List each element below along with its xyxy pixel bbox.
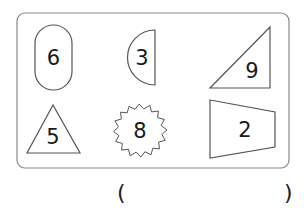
capsule-shape: 6: [35, 25, 72, 90]
semicircle-shape: 3: [128, 30, 155, 85]
starburst-number: 8: [133, 119, 146, 143]
right-triangle-shape: 9: [210, 27, 270, 88]
triangle-shape: 5: [27, 105, 80, 153]
capsule-number: 6: [47, 46, 60, 70]
triangle-number: 5: [46, 125, 59, 149]
trapezoid-shape: 2: [210, 100, 275, 158]
shapes-figure: 6 3 9 5 8 2: [0, 0, 307, 220]
right-triangle-number: 9: [245, 59, 258, 83]
semicircle-number: 3: [135, 46, 148, 70]
starburst-shape: 8: [114, 104, 167, 157]
answer-paren-close: ): [284, 180, 293, 205]
answer-paren-open: (: [117, 180, 126, 205]
trapezoid-number: 2: [238, 118, 251, 142]
